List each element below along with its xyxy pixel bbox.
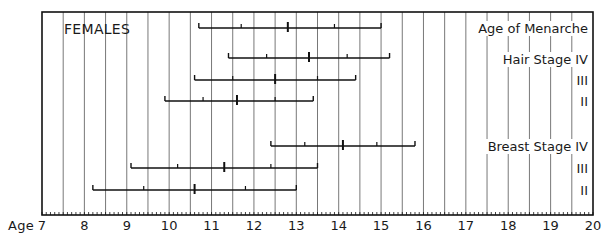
x-tick-label: 13 [288,218,305,233]
x-tick-label: 19 [542,218,559,233]
label-hair-stage-iii: III [574,73,590,88]
label-breast-stage-iv: Breast Stage IV [486,139,590,154]
label-breast-stage-iii: III [574,161,590,176]
x-tick-label: 12 [246,218,263,233]
label-breast-stage-ii: II [578,183,590,198]
x-tick-label: 7 [38,218,46,233]
x-tick-label: 10 [161,218,178,233]
range-bar [271,140,415,150]
x-tick-label: 9 [123,218,131,233]
range-bar [165,95,313,105]
range-bar [199,22,381,32]
x-tick-label: 17 [458,218,475,233]
maturation-range-chart: FEMALES Age of Menarche Hair Stage IV II… [0,0,613,244]
range-bar [93,184,296,194]
range-bar [228,52,389,62]
label-age-of-menarche: Age of Menarche [476,21,590,36]
x-tick-label: 15 [373,218,390,233]
x-axis-label: Age [8,218,34,233]
label-hair-stage-ii: II [578,94,590,109]
x-tick-label: 16 [415,218,432,233]
panel-title: FEMALES [64,21,130,37]
range-bar [131,162,317,172]
range-bar [195,74,356,84]
x-tick-label: 20 [585,218,602,233]
x-tick-label: 11 [203,218,220,233]
x-tick-label: 18 [500,218,517,233]
label-hair-stage-iv: Hair Stage IV [501,52,590,67]
x-tick-label: 14 [330,218,347,233]
x-tick-label: 8 [80,218,88,233]
